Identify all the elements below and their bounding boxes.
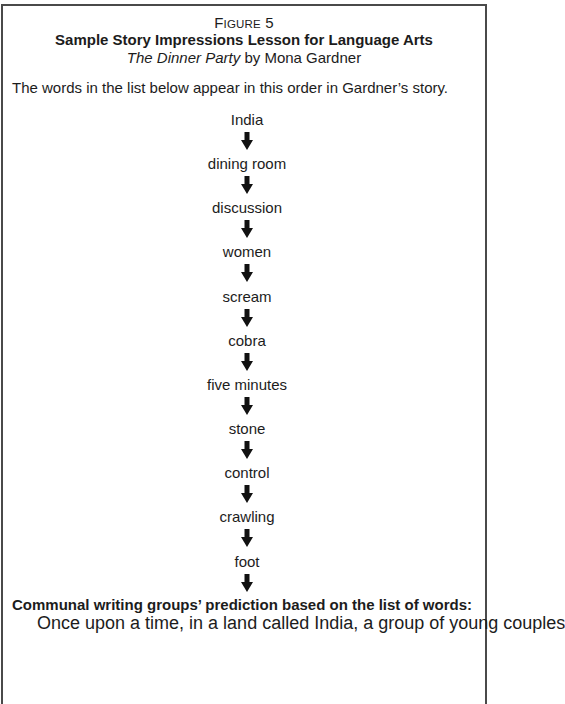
word-item: control bbox=[3, 464, 491, 481]
word-item: stone bbox=[3, 420, 491, 437]
prediction-heading: Communal writing groups’ prediction base… bbox=[12, 596, 472, 613]
figure-label: FIGURE 5 bbox=[3, 15, 485, 32]
word-item: crawling bbox=[3, 508, 491, 525]
story-author: by Mona Gardner bbox=[240, 49, 361, 66]
word-item: women bbox=[3, 243, 491, 260]
down-arrow-icon bbox=[241, 353, 253, 371]
down-arrow-icon bbox=[241, 309, 253, 327]
figure-title: Sample Story Impressions Lesson for Lang… bbox=[3, 31, 485, 48]
figure-label-prefix: F bbox=[214, 14, 223, 31]
word-item: dining room bbox=[3, 155, 491, 172]
word-item: cobra bbox=[3, 332, 491, 349]
down-arrow-icon bbox=[241, 441, 253, 459]
figure-label-number: 5 bbox=[261, 14, 274, 31]
figure-subtitle: The Dinner Party by Mona Gardner bbox=[3, 49, 485, 66]
story-title: The Dinner Party bbox=[127, 49, 240, 66]
down-arrow-icon bbox=[241, 264, 253, 282]
figure-frame: FIGURE 5 Sample Story Impressions Lesson… bbox=[1, 4, 487, 704]
down-arrow-icon bbox=[241, 176, 253, 194]
word-item: foot bbox=[3, 553, 491, 570]
word-item: scream bbox=[3, 288, 491, 305]
intro-text: The words in the list below appear in th… bbox=[12, 79, 448, 96]
word-item: India bbox=[3, 111, 491, 128]
word-item: discussion bbox=[3, 199, 491, 216]
down-arrow-icon bbox=[241, 397, 253, 415]
down-arrow-icon bbox=[241, 132, 253, 150]
down-arrow-icon bbox=[241, 529, 253, 547]
down-arrow-icon bbox=[241, 485, 253, 503]
down-arrow-icon bbox=[241, 574, 253, 592]
prediction-text: Once upon a time, in a land called India… bbox=[37, 613, 565, 633]
down-arrow-icon bbox=[241, 220, 253, 238]
word-item: five minutes bbox=[3, 376, 491, 393]
figure-label-smallcaps: IGURE bbox=[224, 18, 261, 30]
